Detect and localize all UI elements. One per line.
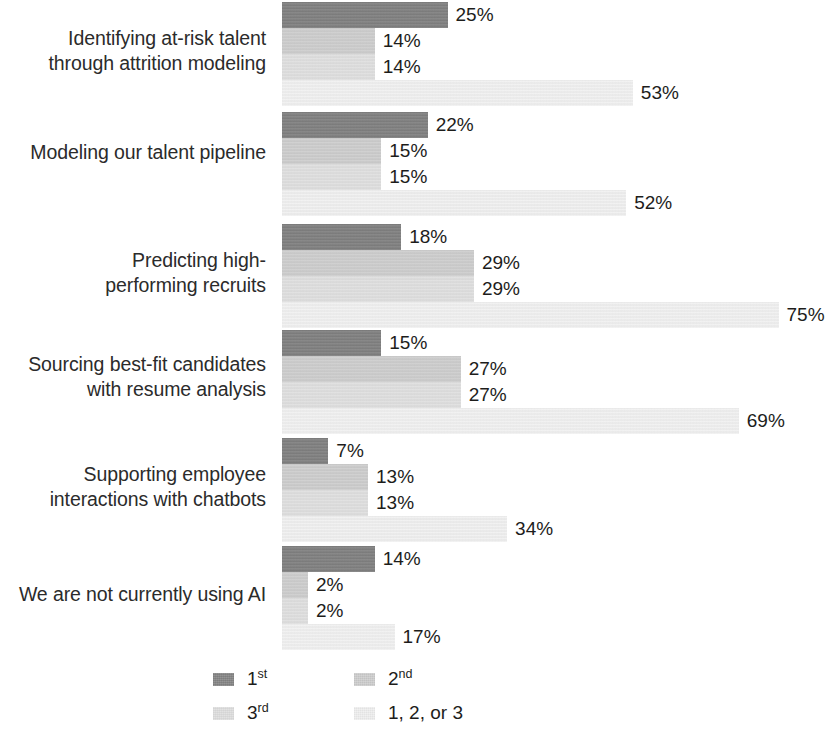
category-label: Supporting employee interactions with ch… xyxy=(0,462,266,512)
category-label: Predicting high- performing recruits xyxy=(0,248,266,298)
bar-value-label: 53% xyxy=(641,82,679,104)
bar-segment[interactable] xyxy=(282,80,633,106)
bar-value-label: 27% xyxy=(469,384,507,406)
bar-value-label: 27% xyxy=(469,358,507,380)
legend-item-1st[interactable]: 1st xyxy=(213,668,267,690)
bar-value-label: 18% xyxy=(409,226,447,248)
legend-label-total: 1, 2, or 3 xyxy=(388,702,463,724)
bar-segment[interactable] xyxy=(282,598,308,624)
legend-label-2nd: 2nd xyxy=(388,668,412,690)
legend-label-3rd: 3rd xyxy=(247,702,269,724)
legend-row-bottom: 3rd 1, 2, or 3 xyxy=(213,702,553,734)
bar-segment[interactable] xyxy=(282,516,507,542)
bar-segment[interactable] xyxy=(282,330,381,356)
bar-segment[interactable] xyxy=(282,408,739,434)
bar-segment[interactable] xyxy=(282,2,448,28)
bar-segment[interactable] xyxy=(282,464,368,490)
legend-label-1st: 1st xyxy=(247,668,267,690)
legend-item-total[interactable]: 1, 2, or 3 xyxy=(354,702,463,724)
category-label: Modeling our talent pipeline xyxy=(0,140,266,165)
bar-segment[interactable] xyxy=(282,54,375,80)
legend-row-top: 1st 2nd xyxy=(213,668,553,702)
bar-segment[interactable] xyxy=(282,490,368,516)
bar-value-label: 17% xyxy=(403,626,441,648)
bar-segment[interactable] xyxy=(282,138,381,164)
bar-segment[interactable] xyxy=(282,250,474,276)
legend-swatch-2nd-icon xyxy=(354,673,375,686)
bar-value-label: 52% xyxy=(634,192,672,214)
legend-swatch-1st-icon xyxy=(213,673,234,686)
bar-segment[interactable] xyxy=(282,624,395,650)
bar-value-label: 2% xyxy=(316,600,343,622)
bar-segment[interactable] xyxy=(282,356,461,382)
category-label: We are not currently using AI xyxy=(0,582,266,607)
bar-segment[interactable] xyxy=(282,190,626,216)
category-label: Sourcing best-fit candidates with resume… xyxy=(0,352,266,402)
bar-segment[interactable] xyxy=(282,164,381,190)
bar-segment[interactable] xyxy=(282,382,461,408)
legend-item-3rd[interactable]: 3rd xyxy=(213,702,269,724)
bar-segment[interactable] xyxy=(282,546,375,572)
bar-value-label: 15% xyxy=(389,332,427,354)
bar-segment[interactable] xyxy=(282,224,401,250)
bar-value-label: 34% xyxy=(515,518,553,540)
chart-legend: 1st 2nd 3rd 1, 2, or 3 xyxy=(213,668,553,734)
bar-segment[interactable] xyxy=(282,28,375,54)
bar-value-label: 15% xyxy=(389,140,427,162)
bar-value-label: 7% xyxy=(336,440,363,462)
legend-item-2nd[interactable]: 2nd xyxy=(354,668,412,690)
bar-value-label: 14% xyxy=(383,548,421,570)
bar-value-label: 14% xyxy=(383,30,421,52)
bar-segment[interactable] xyxy=(282,302,779,328)
bar-value-label: 29% xyxy=(482,278,520,300)
bar-segment[interactable] xyxy=(282,276,474,302)
bar-value-label: 22% xyxy=(436,114,474,136)
bar-value-label: 75% xyxy=(787,304,825,326)
bar-value-label: 29% xyxy=(482,252,520,274)
bar-value-label: 13% xyxy=(376,466,414,488)
bar-value-label: 15% xyxy=(389,166,427,188)
bar-value-label: 69% xyxy=(747,410,785,432)
bar-value-label: 14% xyxy=(383,56,421,78)
bar-segment[interactable] xyxy=(282,438,328,464)
bar-value-label: 13% xyxy=(376,492,414,514)
legend-swatch-total-icon xyxy=(354,707,375,720)
bar-value-label: 25% xyxy=(456,4,494,26)
bar-segment[interactable] xyxy=(282,112,428,138)
category-label: Identifying at-risk talent through attri… xyxy=(0,26,266,76)
legend-swatch-3rd-icon xyxy=(213,707,234,720)
bar-value-label: 2% xyxy=(316,574,343,596)
bar-segment[interactable] xyxy=(282,572,308,598)
